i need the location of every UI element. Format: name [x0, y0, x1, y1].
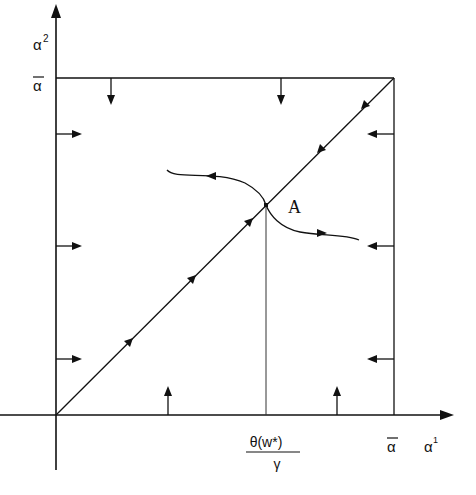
- phase-diagram: α 2 α α α 1 A θ(w*) γ: [0, 0, 476, 495]
- diagonal-line: [56, 78, 394, 415]
- x-axis-arrow-icon: [440, 410, 454, 420]
- left-arrows: [367, 130, 394, 363]
- upper-separatrix: [167, 170, 266, 205]
- y-axis-arrow-icon: [51, 4, 61, 18]
- left-arrow-icon: [206, 172, 216, 180]
- threshold-denominator: γ: [274, 456, 281, 472]
- right-arrow-icon: [317, 229, 327, 237]
- y-axis: [51, 4, 61, 470]
- x-axis: [0, 410, 454, 420]
- y-bar-label: α: [33, 77, 42, 94]
- lower-separatrix: [266, 205, 359, 240]
- equilibrium-label: A: [288, 197, 301, 217]
- x-bar-label: α: [387, 438, 396, 455]
- y-axis-superscript: 2: [43, 33, 49, 44]
- y-axis-label: α: [33, 36, 42, 53]
- x-axis-superscript: 1: [433, 435, 438, 445]
- right-arrows: [56, 130, 82, 363]
- threshold-numerator: θ(w*): [250, 434, 283, 450]
- equilibrium-point-a: [264, 203, 268, 207]
- x-axis-label: α: [424, 438, 433, 455]
- down-arrows: [107, 78, 285, 105]
- up-arrows: [164, 386, 341, 415]
